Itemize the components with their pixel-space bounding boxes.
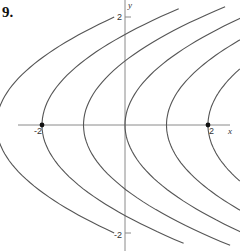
x-tick-label-2: 2 bbox=[209, 126, 214, 136]
y-axis-label: y bbox=[127, 0, 132, 10]
x-axis-label: x bbox=[227, 126, 232, 136]
plot-area: y x 2 -2 -2 2 bbox=[0, 0, 240, 251]
y-tick-label-2: 2 bbox=[117, 12, 122, 22]
x-tick-label-neg2: -2 bbox=[34, 126, 42, 136]
y-tick-label-neg2: -2 bbox=[114, 230, 122, 240]
